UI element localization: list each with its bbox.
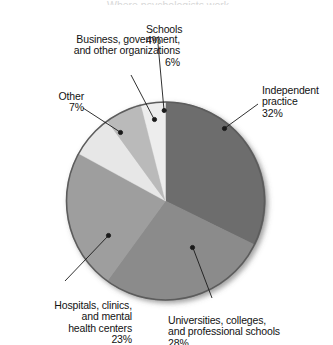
slice-label-other: Other 7% <box>8 79 84 125</box>
slice-label-independent-practice-percent: 32% <box>262 108 332 120</box>
pie-slices-group <box>67 102 266 301</box>
leader-line-independent <box>225 104 258 128</box>
slice-label-independent-practice: Independent practice 32% <box>262 73 332 131</box>
slice-label-independent-practice-text: Independent practice <box>262 84 319 108</box>
leader-dot-independent <box>222 126 226 130</box>
slice-label-hospitals-text: Hospitals, clinics, and mental health ce… <box>54 299 132 334</box>
leader-dot-other <box>118 130 122 134</box>
slice-label-universities-text: Universities, colleges, and professional… <box>168 314 280 338</box>
slice-label-business-percent: 6% <box>4 57 180 69</box>
pie-chart-figure: Business, government, and other organiza… <box>0 0 333 345</box>
leader-dot-universities <box>190 245 194 249</box>
leader-dot-schools <box>162 108 166 112</box>
leader-dot-business <box>152 117 156 121</box>
slice-label-schools: Schools 4% <box>146 12 226 58</box>
slice-label-other-text: Other <box>58 90 84 102</box>
slice-label-universities-percent: 28% <box>168 338 333 345</box>
slice-label-schools-text: Schools <box>146 23 182 35</box>
slice-label-hospitals: Hospitals, clinics, and mental health ce… <box>2 288 132 345</box>
leader-dot-hospitals <box>106 233 110 237</box>
slice-label-other-percent: 7% <box>8 102 84 114</box>
pie-chart-page: Where psychologists work <box>0 0 333 345</box>
slice-label-schools-percent: 4% <box>146 35 226 47</box>
slice-label-hospitals-percent: 23% <box>2 334 132 345</box>
slice-label-universities: Universities, colleges, and professional… <box>168 303 333 345</box>
